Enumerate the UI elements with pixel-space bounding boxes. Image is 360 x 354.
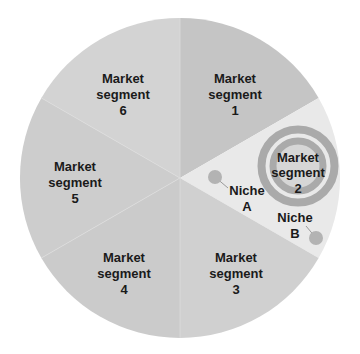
svg-text:segment: segment: [48, 175, 102, 190]
svg-text:3: 3: [232, 282, 239, 297]
svg-text:segment: segment: [271, 165, 325, 180]
svg-text:1: 1: [231, 103, 238, 118]
svg-text:Niche: Niche: [229, 183, 264, 198]
market-segmentation-diagram: Market segment 6 Market segment 1 Market…: [0, 0, 360, 354]
svg-text:6: 6: [119, 103, 126, 118]
svg-text:4: 4: [120, 282, 128, 297]
svg-text:Market: Market: [215, 250, 258, 265]
svg-text:Market: Market: [214, 71, 257, 86]
svg-text:segment: segment: [96, 87, 150, 102]
svg-text:Market: Market: [54, 159, 97, 174]
svg-text:5: 5: [71, 191, 78, 206]
svg-text:Market: Market: [103, 250, 146, 265]
svg-text:A: A: [242, 199, 252, 214]
svg-text:segment: segment: [209, 266, 263, 281]
svg-text:segment: segment: [97, 266, 151, 281]
svg-text:Market: Market: [277, 150, 320, 165]
svg-text:B: B: [290, 226, 299, 241]
svg-text:2: 2: [294, 181, 301, 196]
svg-text:Market: Market: [102, 71, 145, 86]
svg-text:segment: segment: [208, 87, 262, 102]
svg-text:Niche: Niche: [277, 210, 312, 225]
